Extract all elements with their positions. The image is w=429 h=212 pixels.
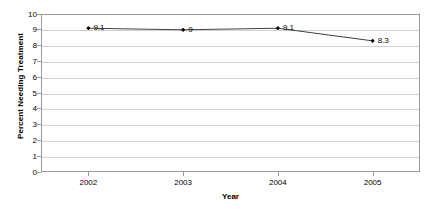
y-tick-label: 9 <box>13 25 37 34</box>
data-point-label: 9.1 <box>283 23 294 32</box>
data-point-label: 9 <box>188 25 192 34</box>
x-tick-label: 2005 <box>353 178 393 188</box>
gridline <box>42 62 419 63</box>
line-chart: Percent Needing Treatment Year 012345678… <box>0 0 429 212</box>
y-tick-mark <box>37 93 41 94</box>
gridline <box>42 125 419 126</box>
y-tick-label: 4 <box>13 104 37 113</box>
plot-area <box>41 14 420 172</box>
y-tick-mark <box>37 108 41 109</box>
y-tick-mark <box>37 61 41 62</box>
y-tick-mark <box>37 172 41 173</box>
x-tick-mark <box>183 172 184 176</box>
y-tick-mark <box>37 45 41 46</box>
y-tick-mark <box>37 140 41 141</box>
gridline <box>42 141 419 142</box>
gridline <box>42 94 419 95</box>
gridline <box>42 46 419 47</box>
y-tick-label: 6 <box>13 73 37 82</box>
x-tick-label: 2003 <box>163 178 203 188</box>
x-tick-mark <box>373 172 374 176</box>
y-tick-label: 8 <box>13 41 37 50</box>
data-point-label: 9.1 <box>93 23 104 32</box>
y-tick-mark <box>37 156 41 157</box>
y-tick-mark <box>37 124 41 125</box>
y-tick-label: 5 <box>13 89 37 98</box>
x-tick-label: 2004 <box>258 178 298 188</box>
gridline <box>42 78 419 79</box>
gridline <box>42 157 419 158</box>
y-tick-label: 2 <box>13 136 37 145</box>
y-tick-mark <box>37 14 41 15</box>
y-tick-label: 7 <box>13 57 37 66</box>
y-tick-label: 3 <box>13 120 37 129</box>
y-tick-label: 1 <box>13 152 37 161</box>
x-axis-title: Year <box>41 192 420 201</box>
gridline <box>42 109 419 110</box>
y-tick-mark <box>37 77 41 78</box>
x-tick-label: 2002 <box>68 178 108 188</box>
y-tick-mark <box>37 29 41 30</box>
data-point-label: 8.3 <box>378 36 389 45</box>
x-tick-mark <box>278 172 279 176</box>
x-tick-mark <box>88 172 89 176</box>
y-tick-label: 0 <box>13 168 37 177</box>
y-tick-label: 10 <box>13 10 37 19</box>
